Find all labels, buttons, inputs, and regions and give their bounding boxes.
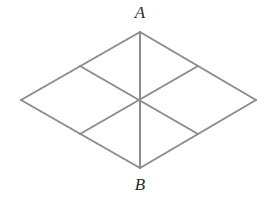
vertex-label-a: A [0,4,269,21]
rhombus-diagram [0,0,269,201]
vertex-label-b: B [0,176,269,193]
vertex-label-a-text: A [135,3,145,22]
figure-canvas: A B [0,0,269,201]
rhombus-interior-lines [80,32,198,168]
vertex-label-b-text: B [135,175,145,194]
